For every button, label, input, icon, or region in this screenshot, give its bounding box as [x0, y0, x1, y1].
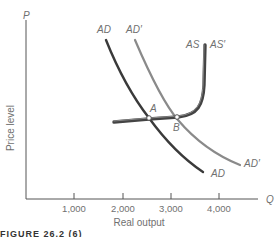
y-axis-label: Price level — [5, 105, 16, 151]
ad-top-label: AD — [96, 24, 111, 35]
ad-prime-bottom-label: AD′ — [243, 158, 261, 169]
x-tick-label-1000: 1,000 — [62, 203, 86, 214]
as-prime-label: AS′ — [209, 39, 226, 50]
ad-prime-top-label: AD′ — [125, 24, 143, 35]
ad-bottom-label: AD — [210, 168, 225, 179]
figure-caption: FIGURE 26.2 (6) — [0, 229, 83, 237]
x-axis-label: Real output — [113, 217, 164, 228]
point-a-marker — [147, 116, 152, 121]
point-b-label: B — [173, 122, 180, 133]
ad-as-diagram: P Q Price level Real output 1,000 2,000 … — [0, 0, 280, 237]
point-b-marker — [175, 115, 180, 120]
point-a-label: A — [149, 103, 157, 114]
y-axis-symbol: P — [23, 10, 30, 21]
x-axis-symbol: Q — [266, 194, 274, 205]
x-tick-label-3000: 3,000 — [159, 203, 183, 214]
as-label: AS — [185, 39, 200, 50]
x-tick-label-4000: 4,000 — [207, 203, 231, 214]
x-tick-label-2000: 2,000 — [111, 203, 135, 214]
